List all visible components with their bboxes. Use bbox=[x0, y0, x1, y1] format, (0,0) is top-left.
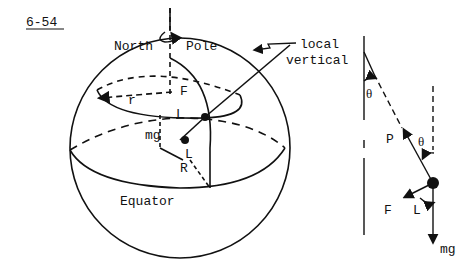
label-L-globe-1: L bbox=[176, 107, 184, 122]
label-mg-globe: mg bbox=[145, 128, 161, 143]
label-theta-2: θ bbox=[418, 134, 424, 149]
earth-sphere bbox=[70, 8, 290, 258]
label-equator: Equator bbox=[120, 194, 175, 209]
label-r: r bbox=[128, 93, 136, 108]
center-point bbox=[181, 136, 189, 144]
label-north: North bbox=[114, 39, 153, 54]
label-R: R bbox=[180, 161, 188, 176]
rotation-arrow-icon bbox=[160, 32, 174, 42]
pendulum-bob bbox=[427, 177, 439, 189]
label-F-globe: F bbox=[180, 84, 188, 99]
local-vertical-pointer bbox=[255, 43, 296, 50]
label-theta-1: θ bbox=[366, 86, 372, 101]
label-P: P bbox=[386, 132, 394, 147]
figure-number: 6-54 bbox=[26, 15, 57, 30]
pendulum-bob-on-earth bbox=[201, 113, 209, 121]
physics-diagram: 6-54 North Pole r F L mg L R Equator bbox=[0, 0, 476, 272]
label-local: local bbox=[300, 37, 339, 52]
label-L-globe-2: L bbox=[185, 147, 193, 162]
label-vertical: vertical bbox=[286, 53, 349, 68]
label-pole: Pole bbox=[186, 39, 217, 54]
label-F: F bbox=[384, 203, 392, 218]
label-mg: mg bbox=[440, 242, 456, 257]
label-L: L bbox=[413, 203, 421, 218]
